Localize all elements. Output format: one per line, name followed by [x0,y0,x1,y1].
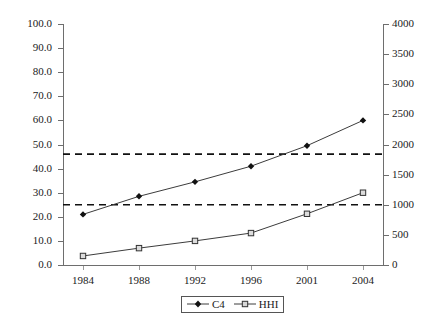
data-point-c4 [192,179,198,185]
x-axis-tick [307,266,308,270]
data-point-hhi [360,190,365,195]
y-axis-right-tick-label: 1000 [392,199,414,210]
y-axis-right-tick-label: 500 [392,229,409,240]
y-axis-right-tick-label: 4000 [392,18,414,29]
y-axis-left-tick-label: 20.0 [33,211,52,222]
y-axis-right-tick-label: 2000 [392,139,414,150]
x-axis-tick-label: 1984 [53,274,113,286]
y-axis-right-tick [384,235,389,236]
y-axis-right-tick [384,265,389,266]
data-series-layer [63,24,383,265]
data-point-hhi [304,211,309,216]
y-axis-right-tick-label: 3500 [392,48,414,59]
chart-figure: 0.010.020.030.040.050.060.070.080.090.01… [0,0,447,324]
y-axis-left-tick-label: 80.0 [33,66,52,77]
y-axis-left-tick-label: 10.0 [33,235,52,246]
y-axis-right-tick [384,175,389,176]
x-axis-tick-label: 1992 [165,274,225,286]
data-point-hhi [248,230,253,235]
x-axis-tick [139,266,140,270]
y-axis-right-tick [384,114,389,115]
series-line-hhi [83,193,363,256]
data-point-hhi [80,253,85,258]
data-point-c4 [360,117,366,123]
y-axis-right-tick-label: 0 [392,259,398,270]
legend-label-c4: C4 [212,298,225,310]
x-axis-tick [83,266,84,270]
x-axis-tick-label: 1996 [221,274,281,286]
y-axis-right-tick [384,145,389,146]
x-axis-tick [195,266,196,270]
y-axis-left-tick-label: 0.0 [38,259,52,270]
x-axis-line [63,265,384,266]
y-axis-left-tick-label: 90.0 [33,42,52,53]
y-axis-left-tick-label: 60.0 [33,114,52,125]
legend-marker-diamond-icon [187,299,209,309]
y-axis-left-tick-label: 100.0 [27,18,52,29]
y-axis-right-tick-label: 1500 [392,169,414,180]
data-point-hhi [136,245,141,250]
y-axis-left-tick-label: 30.0 [33,187,52,198]
x-axis-tick-label: 2001 [277,274,337,286]
legend-item-hhi: HHI [234,298,279,310]
y-axis-left-tick-label: 40.0 [33,163,52,174]
y-axis-left-tick-label: 70.0 [33,90,52,101]
y-axis-right-tick [384,205,389,206]
x-axis-tick [363,266,364,270]
chart-legend: C4 HHI [181,296,284,313]
y-axis-left-tick-label: 50.0 [33,139,52,150]
data-point-c4 [80,211,86,217]
y-axis-left-tick [58,265,63,266]
data-point-c4 [136,193,142,199]
y-axis-right-tick [384,84,389,85]
legend-marker-square-icon [234,299,256,309]
legend-item-c4: C4 [187,298,225,310]
series-line-c4 [83,120,363,214]
y-axis-right-tick [384,24,389,25]
y-axis-right-tick-label: 2500 [392,108,414,119]
x-axis-tick-label: 2004 [333,274,393,286]
x-axis-tick-label: 1988 [109,274,169,286]
y-axis-right-tick-label: 3000 [392,78,414,89]
y-axis-right-tick [384,54,389,55]
legend-label-hhi: HHI [259,298,279,310]
data-point-c4 [248,163,254,169]
x-axis-tick [251,266,252,270]
plot-area [63,24,383,265]
data-point-hhi [192,238,197,243]
data-point-c4 [304,143,310,149]
